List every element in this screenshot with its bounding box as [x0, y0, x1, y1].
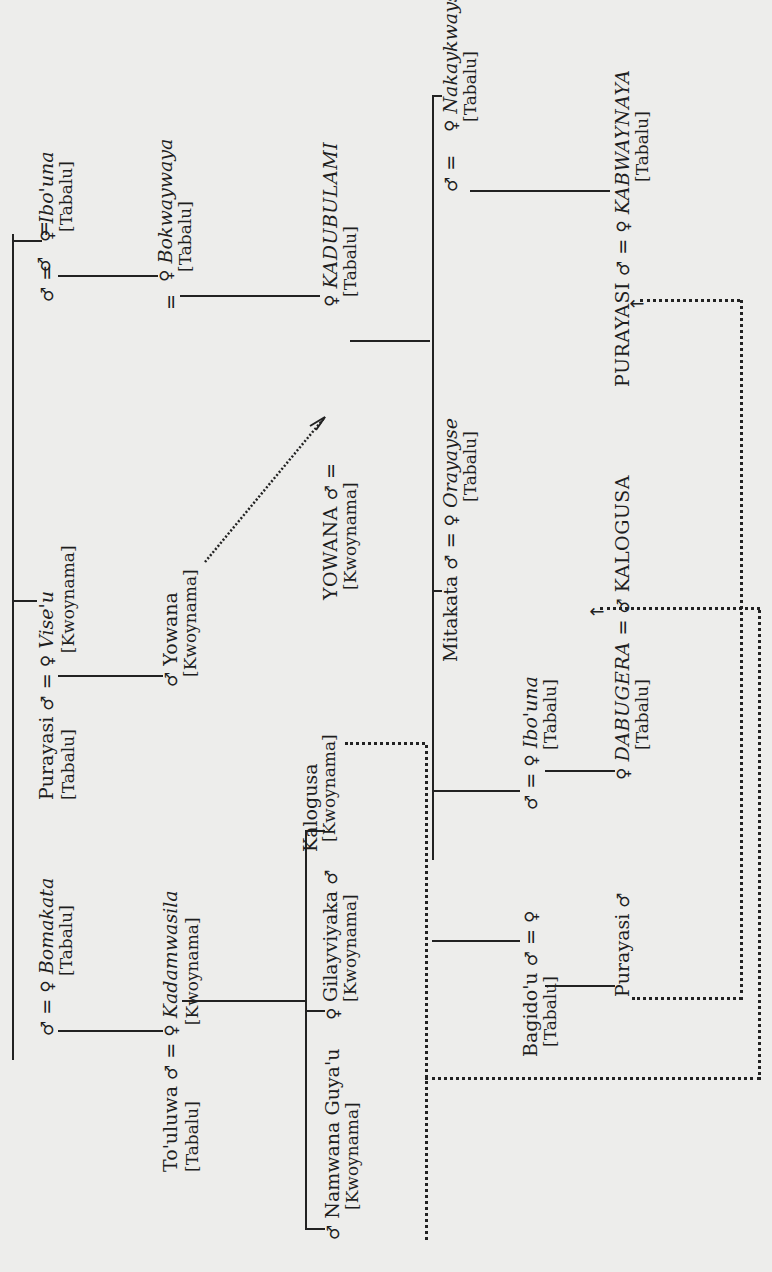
arrow-head-yowana [310, 417, 325, 430]
arrow-head-kalogusa: → [589, 603, 604, 621]
genealogy-page: ♂ = ♀ Ibo'una [Tabalu] ♂ = ♀ Bokwaywaya … [0, 0, 772, 1272]
dotted-purayasi-1 [632, 997, 742, 1000]
arrows-layer [0, 0, 772, 1272]
dotted-to-kalogusa [600, 607, 760, 610]
arrow-head-purayasi: → [629, 295, 644, 313]
dotted-right-line [758, 610, 761, 1080]
dotted-kalogusa-1 [345, 742, 425, 745]
dotted-kalogusa-2 [425, 745, 428, 1240]
arrow-yowana [205, 417, 325, 562]
dotted-bottom-line [425, 1077, 760, 1080]
dotted-purayasi-3 [640, 299, 740, 302]
dotted-purayasi-2 [740, 300, 743, 1000]
